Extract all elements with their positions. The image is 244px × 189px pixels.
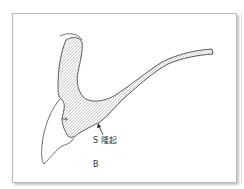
ridge-arrow bbox=[97, 123, 103, 135]
panel-label: B bbox=[93, 160, 99, 169]
s-ridge-label: S 隆起 bbox=[93, 136, 117, 145]
hatched-structure bbox=[58, 38, 213, 138]
anatomical-diagram bbox=[0, 0, 244, 189]
